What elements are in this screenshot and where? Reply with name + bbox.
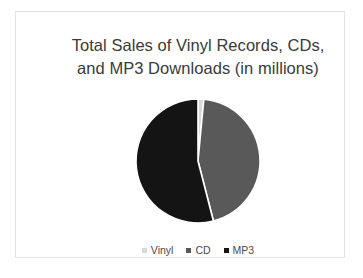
slide-canvas: Total Sales of Vinyl Records, CDs, and M…	[0, 0, 363, 278]
legend-swatch-icon-vinyl	[142, 248, 147, 253]
pie-chart	[135, 98, 261, 224]
legend-item-cd[interactable]: CD	[186, 244, 210, 256]
chart-title-line-1: Total Sales of Vinyl Records, CDs,	[40, 34, 356, 57]
legend-item-vinyl[interactable]: Vinyl	[142, 244, 174, 256]
legend-label: MP3	[233, 244, 255, 256]
pie-plot-area	[135, 98, 261, 224]
chart-title-line-2: and MP3 Downloads (in millions)	[40, 57, 356, 80]
chart-title: Total Sales of Vinyl Records, CDs, and M…	[40, 34, 356, 80]
legend-label: Vinyl	[151, 244, 174, 256]
legend-swatch-icon-mp3	[224, 248, 229, 253]
pie-slice-group	[136, 99, 260, 223]
legend-swatch-icon-cd	[186, 248, 191, 253]
legend-item-mp3[interactable]: MP3	[224, 244, 255, 256]
chart-frame: Total Sales of Vinyl Records, CDs, and M…	[15, 11, 345, 258]
chart-legend: VinylCDMP3	[40, 244, 356, 256]
legend-label: CD	[195, 244, 210, 256]
